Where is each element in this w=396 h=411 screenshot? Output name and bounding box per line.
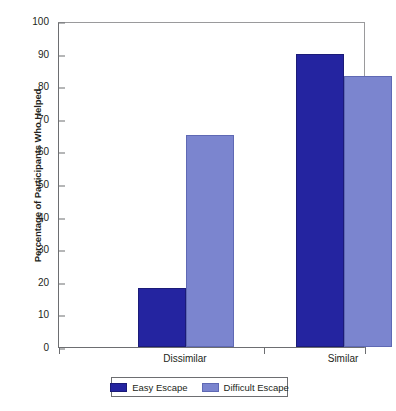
y-tick-label: 90	[38, 48, 49, 59]
y-tick-label: 80	[38, 81, 49, 92]
y-tick-label: 70	[38, 113, 49, 124]
bar-similar-difficult-escape	[344, 76, 392, 347]
x-tick-mark-1	[264, 347, 265, 354]
y-tick-mark	[59, 218, 65, 219]
y-tick-label: 40	[38, 211, 49, 222]
bar-dissimilar-difficult-escape	[186, 135, 234, 347]
y-tick-mark	[59, 88, 65, 89]
y-tick-mark	[59, 283, 65, 284]
y-tick-mark	[59, 153, 65, 154]
plot-area: 0102030405060708090100	[58, 22, 365, 348]
y-tick-label: 20	[38, 276, 49, 287]
legend-item-difficult-escape: Difficult Escape	[202, 382, 289, 393]
y-tick-label: 0	[43, 342, 49, 353]
y-tick-mark	[59, 251, 65, 252]
legend-item-easy-escape: Easy Escape	[110, 382, 187, 393]
legend-swatch-icon	[202, 383, 219, 392]
x-category-label-dissimilar: Dissimilar	[125, 353, 245, 364]
legend-swatch-icon	[110, 383, 127, 392]
y-tick-mark	[59, 316, 65, 317]
y-tick-label: 10	[38, 309, 49, 320]
chart-legend: Easy EscapeDifficult Escape	[111, 377, 288, 397]
y-tick-mark	[59, 55, 65, 56]
bar-dissimilar-easy-escape	[138, 288, 186, 347]
bar-similar-easy-escape	[296, 54, 344, 347]
y-tick-label: 50	[38, 179, 49, 190]
y-tick-label: 100	[32, 16, 49, 27]
legend-label: Difficult Escape	[224, 382, 289, 393]
y-tick-label: 30	[38, 244, 49, 255]
y-tick-mark	[59, 120, 65, 121]
y-tick-label: 60	[38, 146, 49, 157]
x-category-label-similar: Similar	[283, 353, 396, 364]
legend-label: Easy Escape	[132, 382, 187, 393]
y-tick-mark	[59, 23, 65, 24]
x-tick-mark-0	[59, 347, 60, 354]
y-tick-mark	[59, 186, 65, 187]
